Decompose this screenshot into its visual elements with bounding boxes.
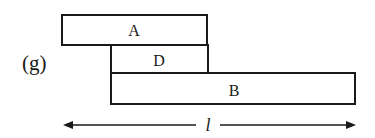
panel-label: (g) (22, 51, 47, 75)
arrowhead-left-icon (63, 121, 73, 129)
block-b-label: B (229, 82, 240, 99)
block-b: B (111, 73, 355, 104)
block-d-label: D (153, 52, 165, 69)
length-label: l (205, 115, 210, 135)
diagram-canvas: (g) A D B l (0, 0, 375, 138)
length-dimension-arrow: l (63, 115, 356, 135)
block-a-label: A (128, 22, 140, 39)
arrowhead-right-icon (346, 121, 356, 129)
block-d: D (111, 45, 208, 73)
block-a: A (62, 15, 207, 45)
